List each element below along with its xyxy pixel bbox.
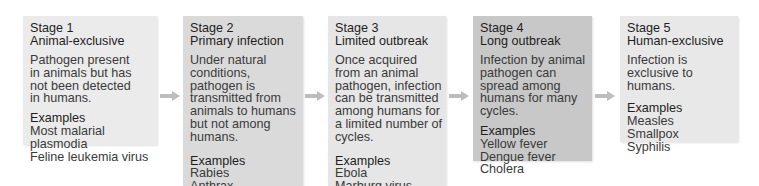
stage-description: Infection by animal pathogen can spread … <box>480 54 592 118</box>
stage-1-box: Stage 1 Animal-exclusive Pathogen presen… <box>23 16 157 145</box>
example-item: Marburg virus <box>335 180 440 186</box>
stage-3-box: Stage 3 Limited outbreak Once acquired f… <box>328 16 446 186</box>
example-item: Smallpox <box>627 128 732 141</box>
example-item: Cholera <box>480 163 586 176</box>
stage-description: Once acquired from an animal pathogen, i… <box>335 54 443 144</box>
examples-heading: Examples <box>480 125 586 138</box>
example-item: Most malarial plasmodia <box>30 125 151 151</box>
stage-description: Under natural conditions, pathogen is tr… <box>190 54 298 144</box>
stage-4-box: Stage 4 Long outbreak Infection by anima… <box>473 16 592 161</box>
example-item: Syphilis <box>627 141 732 154</box>
stage-title: Primary infection <box>190 35 297 48</box>
right-arrow-icon <box>449 91 469 101</box>
stage-title: Limited outbreak <box>335 35 440 48</box>
stage-title: Long outbreak <box>480 35 586 48</box>
stage-description: Infection is exclusive to humans. <box>627 54 737 92</box>
stage-2-box: Stage 2 Primary infection Under natural … <box>183 16 303 186</box>
right-arrow-icon <box>305 91 325 101</box>
right-arrow-icon <box>160 91 180 101</box>
stage-title: Animal-exclusive <box>30 35 151 48</box>
stage-5-box: Stage 5 Human-exclusive Infection is exc… <box>620 16 738 142</box>
stage-title: Human-exclusive <box>627 35 732 48</box>
example-item: Feline leukemia virus <box>30 151 151 164</box>
stage-description: Pathogen present in animals but has not … <box>30 54 140 105</box>
right-arrow-icon <box>595 91 615 101</box>
example-item: Yellow fever <box>480 138 586 151</box>
example-item: Anthrax <box>190 180 297 186</box>
